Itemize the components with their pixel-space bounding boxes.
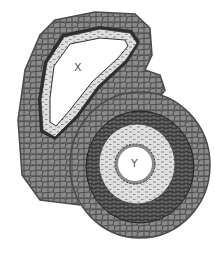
vessel-y-label: Y	[131, 158, 138, 169]
vessel-cross-section-diagram: X Y	[0, 0, 218, 253]
vessel-x-label: X	[74, 62, 82, 73]
vessel-y	[86, 111, 194, 223]
diagram-canvas	[0, 0, 218, 253]
